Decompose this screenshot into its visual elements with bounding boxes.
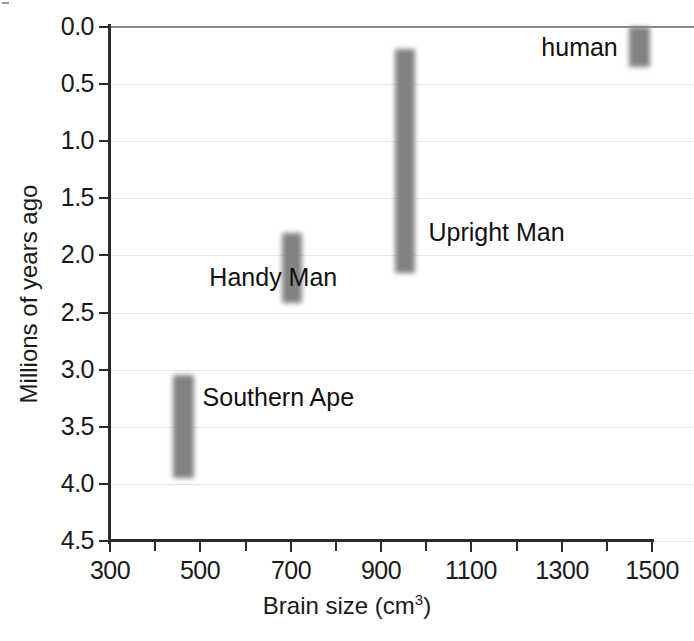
- x-tick-label: 900: [336, 556, 426, 584]
- x-tick-label: 1100: [426, 556, 516, 584]
- y-tick-label: 1.5: [38, 185, 94, 210]
- x-tick-label: 1300: [517, 556, 607, 584]
- range-bar: [629, 27, 649, 67]
- x-minor-tick: [606, 542, 608, 551]
- y-axis-line: [108, 24, 111, 544]
- x-minor-tick: [425, 542, 427, 551]
- top-rule: [110, 26, 694, 28]
- y-tick-label: 1.0: [38, 128, 94, 153]
- y-tick-label-wrap: 3.0: [36, 357, 94, 382]
- gridline: [110, 427, 694, 428]
- y-tick-label: 4.5: [38, 528, 94, 553]
- x-tick: [109, 542, 111, 552]
- x-axis-title-main: Brain size (cm: [263, 592, 415, 619]
- x-minor-tick: [516, 542, 518, 551]
- x-minor-tick: [245, 542, 247, 551]
- bar-label: Southern Ape: [203, 385, 355, 410]
- range-bar: [395, 49, 415, 273]
- y-tick: [99, 254, 110, 256]
- gridline: [110, 370, 694, 371]
- y-tick-label: 2.0: [38, 242, 94, 267]
- x-tick-label: 500: [155, 556, 245, 584]
- corner-mark: [2, 2, 9, 4]
- y-tick-label-wrap: 0.0: [36, 14, 94, 39]
- y-tick-label: 0.0: [38, 14, 94, 39]
- x-tick-label: 700: [246, 556, 336, 584]
- x-tick: [470, 542, 472, 552]
- y-tick-label: 4.0: [38, 471, 94, 496]
- y-tick-label-wrap: 4.5: [36, 528, 94, 553]
- bar-label: Handy Man: [209, 265, 337, 290]
- x-tick-label: 300: [65, 556, 155, 584]
- gridline: [110, 313, 694, 314]
- x-tick: [380, 542, 382, 552]
- y-tick-label-wrap: 4.0: [36, 471, 94, 496]
- y-tick: [99, 426, 110, 428]
- y-tick: [99, 83, 110, 85]
- bar-label: Upright Man: [428, 220, 564, 245]
- y-tick: [99, 312, 110, 314]
- x-tick-label: 1500: [607, 556, 694, 584]
- x-axis-title-exponent: 3: [415, 591, 423, 608]
- x-axis-title: Brain size (cm3): [0, 592, 694, 620]
- y-axis-title: Millions of years ago: [15, 144, 43, 444]
- y-tick-label: 0.5: [38, 71, 94, 96]
- y-tick: [99, 369, 110, 371]
- y-tick-label-wrap: 0.5: [36, 71, 94, 96]
- y-tick-label-wrap: 2.5: [36, 300, 94, 325]
- range-bar: [173, 375, 193, 478]
- y-tick-label-wrap: 1.0: [36, 128, 94, 153]
- y-tick: [99, 140, 110, 142]
- y-tick-label: 2.5: [38, 300, 94, 325]
- y-tick-label: 3.0: [38, 357, 94, 382]
- gridline: [110, 484, 694, 485]
- y-tick-label-wrap: 1.5: [36, 185, 94, 210]
- y-tick: [99, 197, 110, 199]
- x-axis-title-tail: ): [423, 592, 431, 619]
- bar-label: human: [541, 35, 617, 60]
- y-tick-label: 3.5: [38, 414, 94, 439]
- brain-size-evolution-chart: 0.00.51.01.52.02.53.03.54.04.5 300500700…: [0, 0, 694, 641]
- x-tick: [561, 542, 563, 552]
- y-tick: [99, 26, 110, 28]
- y-tick-label-wrap: 3.5: [36, 414, 94, 439]
- x-tick: [290, 542, 292, 552]
- y-tick-label-wrap: 2.0: [36, 242, 94, 267]
- y-tick: [99, 483, 110, 485]
- x-tick: [651, 542, 653, 552]
- x-minor-tick: [335, 542, 337, 551]
- x-tick: [199, 542, 201, 552]
- x-minor-tick: [154, 542, 156, 551]
